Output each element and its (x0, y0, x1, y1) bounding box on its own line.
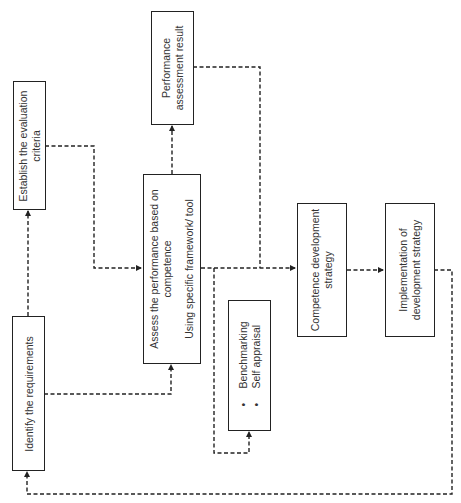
edge-identify-to-assess (44, 365, 171, 394)
label-line: Assess the performance based on (148, 189, 161, 348)
node-label: Identify the requirements (22, 336, 35, 452)
label-subline: Using specific framework/ tool (183, 189, 196, 348)
flowchart-canvas: Identify the requirements Establish the … (0, 0, 461, 503)
node-competence-strategy: Competence development strategy (297, 203, 347, 337)
label-line: Establish the evaluation (17, 90, 30, 201)
label-line: strategy (322, 209, 335, 332)
node-assessment-methods: Benchmarking Self appraisal (228, 300, 271, 431)
bullet-item: Benchmarking (237, 321, 250, 410)
node-identify-requirements: Identify the requirements (12, 316, 45, 471)
label-line: Implementation of (397, 220, 410, 320)
node-establish-criteria: Establish the evaluation criteria (13, 81, 46, 210)
node-label: Performance assessment result (160, 26, 186, 111)
label-line: Identify the requirements (22, 336, 35, 452)
bullet-list: Benchmarking Self appraisal (237, 321, 263, 410)
node-assess-performance: Assess the performance based on competen… (143, 174, 201, 364)
label-line: Performance (160, 26, 173, 111)
node-implementation: Implementation of development strategy (385, 203, 435, 337)
bullet-item: Self appraisal (250, 321, 263, 410)
node-label: Implementation of development strategy (397, 220, 423, 320)
node-label: Assess the performance based on competen… (148, 189, 196, 348)
node-label: Competence development strategy (309, 209, 335, 332)
label-line: assessment result (173, 26, 186, 111)
label-line: criteria (30, 90, 43, 201)
edge-result-to-competence (193, 67, 260, 268)
node-performance-result: Performance assessment result (151, 11, 194, 125)
label-line: Competence development (309, 209, 322, 332)
label-line: development strategy (410, 220, 423, 320)
label-line: competence (161, 189, 174, 348)
edge-establish-to-assess (45, 146, 141, 268)
node-label: Establish the evaluation criteria (17, 90, 43, 201)
